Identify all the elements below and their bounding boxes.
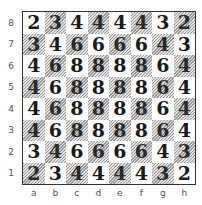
knight-move-count: 4 — [113, 13, 126, 32]
knight-move-count: 8 — [135, 78, 148, 97]
knight-move-count: 6 — [135, 35, 148, 54]
square-b7: 4 — [45, 34, 67, 56]
square-h6: 4 — [174, 55, 196, 77]
square-a4: 4 — [23, 98, 45, 120]
knight-move-count: 8 — [135, 56, 148, 75]
file-label: d — [88, 186, 110, 200]
square-a6: 4 — [23, 55, 45, 77]
square-b6: 6 — [45, 55, 67, 77]
square-a3: 4 — [23, 120, 45, 142]
knight-move-count: 3 — [27, 35, 40, 54]
knight-move-count: 3 — [49, 164, 62, 183]
square-f3: 8 — [131, 120, 153, 142]
file-label: f — [131, 186, 153, 200]
knight-move-count: 6 — [49, 56, 62, 75]
square-f5: 8 — [131, 77, 153, 99]
square-b4: 6 — [45, 98, 67, 120]
chessboard: 2344443234666643468888644688886446888864… — [22, 11, 196, 185]
knight-move-count: 8 — [70, 56, 83, 75]
knight-move-count: 3 — [49, 13, 62, 32]
file-label: b — [45, 186, 67, 200]
file-label: a — [23, 186, 45, 200]
square-e1: 4 — [109, 163, 131, 185]
knight-move-count: 4 — [178, 99, 191, 118]
square-c6: 8 — [66, 55, 88, 77]
square-d1: 4 — [88, 163, 110, 185]
knight-move-count: 4 — [156, 142, 169, 161]
knight-move-count: 4 — [92, 164, 105, 183]
knight-move-count: 8 — [113, 56, 126, 75]
knight-move-count: 8 — [70, 121, 83, 140]
knight-move-count: 8 — [113, 78, 126, 97]
file-label: e — [109, 186, 131, 200]
square-f6: 8 — [131, 55, 153, 77]
knight-move-count: 3 — [178, 35, 191, 54]
square-c4: 8 — [66, 98, 88, 120]
square-h1: 2 — [174, 163, 196, 185]
file-label: h — [174, 186, 196, 200]
square-f4: 8 — [131, 98, 153, 120]
knight-move-count: 4 — [135, 164, 148, 183]
rank-label: 5 — [5, 77, 17, 99]
square-d2: 6 — [88, 141, 110, 163]
knight-move-count: 4 — [49, 35, 62, 54]
knight-move-count: 6 — [49, 99, 62, 118]
rank-label: 3 — [5, 120, 17, 142]
square-e7: 6 — [109, 34, 131, 56]
square-g5: 6 — [152, 77, 174, 99]
knight-move-count: 8 — [92, 56, 105, 75]
file-label: g — [152, 186, 174, 200]
knight-move-count: 3 — [156, 164, 169, 183]
knight-move-count: 8 — [113, 121, 126, 140]
knight-move-count: 6 — [113, 142, 126, 161]
square-f8: 4 — [131, 12, 153, 34]
knight-move-count: 8 — [92, 78, 105, 97]
knight-move-count: 4 — [178, 56, 191, 75]
square-e2: 6 — [109, 141, 131, 163]
knight-move-count: 4 — [70, 164, 83, 183]
knight-move-count: 6 — [49, 121, 62, 140]
square-d5: 8 — [88, 77, 110, 99]
knight-move-count: 4 — [27, 121, 40, 140]
square-g4: 6 — [152, 98, 174, 120]
knight-move-count: 3 — [156, 13, 169, 32]
rank-label: 8 — [5, 12, 17, 34]
knight-move-count: 6 — [92, 142, 105, 161]
knight-move-count: 2 — [27, 13, 40, 32]
square-h8: 2 — [174, 12, 196, 34]
square-c1: 4 — [66, 163, 88, 185]
knight-move-count: 6 — [156, 78, 169, 97]
knight-move-count: 4 — [178, 121, 191, 140]
knight-move-count: 4 — [27, 78, 40, 97]
square-h3: 4 — [174, 120, 196, 142]
rank-label: 2 — [5, 141, 17, 163]
knight-move-count: 6 — [156, 56, 169, 75]
knight-move-count: 8 — [70, 78, 83, 97]
square-g2: 4 — [152, 141, 174, 163]
knight-move-count: 6 — [49, 78, 62, 97]
square-f7: 6 — [131, 34, 153, 56]
rank-label: 7 — [5, 34, 17, 56]
square-h7: 3 — [174, 34, 196, 56]
square-g7: 4 — [152, 34, 174, 56]
square-a5: 4 — [23, 77, 45, 99]
square-c3: 8 — [66, 120, 88, 142]
rank-label: 1 — [5, 163, 17, 185]
square-g6: 6 — [152, 55, 174, 77]
knight-move-count: 4 — [92, 13, 105, 32]
file-label: c — [66, 186, 88, 200]
knight-move-count: 8 — [113, 99, 126, 118]
square-c8: 4 — [66, 12, 88, 34]
square-g1: 3 — [152, 163, 174, 185]
knight-move-count: 8 — [92, 121, 105, 140]
square-h2: 3 — [174, 141, 196, 163]
knight-move-count: 3 — [27, 142, 40, 161]
knight-move-count: 4 — [27, 99, 40, 118]
knight-move-count: 2 — [178, 164, 191, 183]
square-f1: 4 — [131, 163, 153, 185]
square-d6: 8 — [88, 55, 110, 77]
square-c2: 6 — [66, 141, 88, 163]
knight-move-count: 4 — [27, 56, 40, 75]
knight-move-count: 2 — [178, 13, 191, 32]
square-e5: 8 — [109, 77, 131, 99]
